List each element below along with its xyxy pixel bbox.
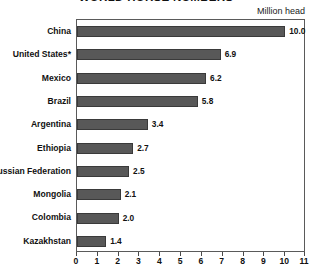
bar-value-label: 10.0 — [289, 26, 305, 37]
bar — [77, 236, 106, 247]
x-axis-tick-label: 11 — [292, 256, 312, 266]
bar-value-label: 6.9 — [225, 49, 237, 60]
horizontal-bar-chart: WORLD HORSE NUMBERS Million head China10… — [0, 0, 312, 270]
bar — [77, 213, 119, 224]
category-label: Brazil — [0, 90, 71, 113]
x-axis: 01234567891011 — [76, 252, 305, 270]
bar-value-label: 2.5 — [133, 166, 145, 177]
bar-row: United States*6.9 — [77, 43, 304, 66]
bar — [77, 166, 129, 177]
bar-value-label: 2.0 — [123, 213, 135, 224]
category-label: China — [0, 20, 71, 43]
bar-value-label: 3.4 — [152, 119, 164, 130]
category-label: United States* — [0, 43, 71, 66]
bar — [77, 143, 133, 154]
bar-row: Russian Federation2.5 — [77, 160, 304, 183]
category-label: Mexico — [0, 67, 71, 90]
bar-row: Brazil5.8 — [77, 90, 304, 113]
category-label: Russian Federation — [0, 160, 71, 183]
category-label: Mongolia — [0, 183, 71, 206]
bar-value-label: 1.4 — [110, 236, 122, 247]
bar-row: Mexico6.2 — [77, 67, 304, 90]
bar — [77, 26, 285, 37]
chart-title: WORLD HORSE NUMBERS — [0, 0, 312, 3]
bar — [77, 49, 221, 60]
unit-caption: Million head — [257, 6, 305, 16]
bar — [77, 96, 198, 107]
bar-row: Mongolia2.1 — [77, 183, 304, 206]
bar-row: Kazakhstan1.4 — [77, 230, 304, 253]
bar-value-label: 2.1 — [125, 189, 137, 200]
category-label: Kazakhstan — [0, 230, 71, 253]
bar — [77, 189, 121, 200]
bar-row: Colombia2.0 — [77, 206, 304, 229]
bar-value-label: 6.2 — [210, 73, 222, 84]
category-label: Argentina — [0, 113, 71, 136]
bar-value-label: 5.8 — [202, 96, 214, 107]
bar-row: Ethiopia2.7 — [77, 137, 304, 160]
category-label: Colombia — [0, 206, 71, 229]
plot-area: China10.0United States*6.9Mexico6.2Brazi… — [76, 19, 305, 252]
bar-row: China10.0 — [77, 20, 304, 43]
category-label: Ethiopia — [0, 137, 71, 160]
bar — [77, 119, 148, 130]
bar-value-label: 2.7 — [137, 143, 149, 154]
bar-row: Argentina3.4 — [77, 113, 304, 136]
bar — [77, 73, 206, 84]
